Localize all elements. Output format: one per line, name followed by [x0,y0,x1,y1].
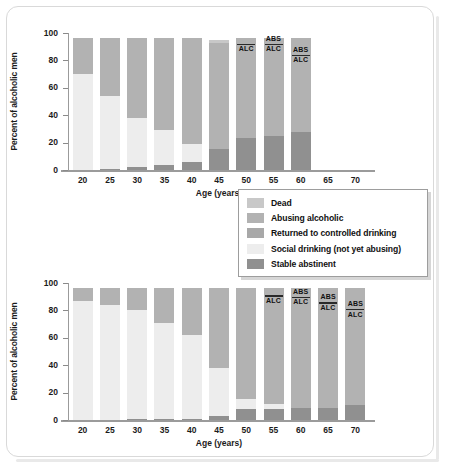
bar-segment-abusing [100,288,120,304]
stacked-bar [209,288,229,420]
bar-segment-abusing [264,38,284,135]
legend-item: Social drinking (not yet abusing) [247,242,401,255]
y-axis-tick-mark [63,33,68,34]
legend-label: Social drinking (not yet abusing) [271,244,401,254]
bar-segment-abusing [154,38,174,130]
legend-item: Dead [247,196,292,209]
x-axis-tick-label: 65 [314,425,342,435]
bar-segment-abusing [154,288,174,322]
annotation-label: ALC [341,311,369,318]
x-axis-tick-label: 50 [232,425,260,435]
x-axis-tick-label: 55 [260,425,288,435]
bar-segment-social [236,399,256,409]
bar-segment-abstinent [100,169,120,170]
bar-segment-social [154,323,174,419]
annotation-label: ABS [287,288,315,295]
x-axis-tick-label: 45 [205,175,233,185]
legend-label: Dead [271,198,292,208]
annotation-label: ALC [232,45,260,52]
annotation-label: ALC [260,297,288,304]
bar-segment-social [100,305,120,420]
bar-segment-abusing [127,38,147,117]
bar-segment-abstinent [209,149,229,170]
bar-segment-social [100,96,120,169]
bar-segment-abusing [73,38,93,74]
legend-swatch [247,244,264,254]
x-axis-tick-label: 20 [69,425,97,435]
bar-segment-abstinent [264,136,284,170]
bar-segment-abusing [182,288,202,335]
y-axis-tick-mark [63,283,68,284]
y-axis-tick-mark [63,338,68,339]
bar-segment-abusing [127,288,147,310]
legend-label: Abusing alcoholic [271,213,343,223]
legend-swatch [247,198,264,208]
stacked-bar [73,288,93,420]
annotation-label: ABS [314,293,342,300]
x-axis-tick-label: 50 [232,175,260,185]
legend-item: Stable abstinent [247,258,336,271]
bar-segment-abusing [264,288,284,403]
legend-label: Stable abstinent [271,259,336,269]
stacked-bar [154,288,174,420]
stacked-bar [100,288,120,420]
bar-segment-social [73,74,93,170]
annotation-label: ALC [287,298,315,305]
bar-segment-abstinent [291,132,311,170]
y-axis-tick-mark [63,60,68,61]
bar-segment-social [127,310,147,418]
bar-segment-abusing [100,38,120,96]
y-axis-tick-mark [63,170,68,171]
annotation-label: ALC [260,45,288,52]
x-axis-tick-label: 30 [123,425,151,435]
x-axis-tick-label: 40 [178,175,206,185]
stacked-bar [264,288,284,420]
bar-segment-social [154,130,174,164]
bar-segment-abstinent [154,165,174,170]
stacked-bar [73,38,93,170]
bar-segment-abstinent [345,405,365,420]
x-axis-tick-label: 20 [69,175,97,185]
bar-segment-abstinent [291,408,311,420]
annotation-label: ABS [260,35,288,42]
bar-segment-abstinent [209,416,229,420]
bar-segment-abusing [73,288,93,300]
legend-swatch [247,228,264,238]
bar-segment-dead [209,40,229,43]
annotation-label: ALC [314,304,342,311]
y-axis-title: Percent of alcoholic men [9,283,19,420]
x-axis-tick-label: 60 [287,175,315,185]
bar-segment-abusing [236,288,256,399]
x-axis-tick-label: 55 [260,175,288,185]
x-axis-tick-label: 60 [287,425,315,435]
figure-frame: 020406080100Percent of alcoholic men2025… [6,6,434,457]
bar-segment-abstinent [127,167,147,170]
stacked-bar [291,288,311,420]
bar-segment-abusing [182,38,202,39]
y-axis-tick-mark [63,310,68,311]
stacked-bar [236,288,256,420]
x-axis-tick-label: 25 [96,175,124,185]
x-axis-tick-label: 70 [341,425,369,435]
bar-segment-abstinent [154,419,174,420]
bar-segment-social [73,301,93,420]
y-axis-title: Percent of alcoholic men [9,33,19,170]
x-axis-line [61,170,375,172]
stacked-bar [209,40,229,170]
x-axis-tick-label: 30 [123,175,151,185]
bar-segment-social [209,368,229,416]
top-chart-panel: 020406080100Percent of alcoholic men2025… [7,15,435,205]
x-axis-tick-label: 35 [150,175,178,185]
stacked-bar [264,38,284,170]
bar-segment-abusing [236,38,256,138]
x-axis-tick-label: 40 [178,425,206,435]
stacked-bar [182,38,202,170]
y-axis-tick-mark [63,393,68,394]
legend-label: Returned to controlled drinking [271,228,396,238]
bar-segment-abusing [182,40,202,144]
stacked-bar [182,288,202,420]
bar-segment-abstinent [127,419,147,420]
stacked-bar [154,38,174,170]
stacked-bar [236,38,256,170]
annotation-label: ABS [341,300,369,307]
